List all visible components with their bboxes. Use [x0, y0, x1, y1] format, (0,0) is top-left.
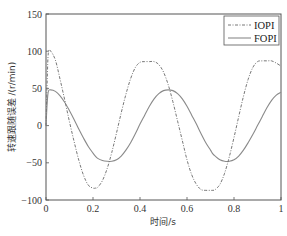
x-tick-label: 0.6 [181, 203, 194, 214]
legend-label-fopi: FOPI [254, 33, 277, 44]
y-axis: 150100500−50−100 [21, 9, 49, 206]
line-chart: 150100500−50−100 00.20.40.60.81 IOPI FOP… [0, 0, 287, 236]
x-tick-label: 1 [279, 203, 284, 214]
x-tick-label: 0 [44, 203, 49, 214]
x-tick-label: 0.2 [87, 203, 100, 214]
legend: IOPI FOPI [224, 16, 279, 45]
y-tick-label: −50 [26, 157, 42, 168]
y-axis-label: 转速跟随误差 /(r/min) [6, 62, 17, 153]
x-tick-label: 0.8 [228, 203, 241, 214]
legend-label-iopi: IOPI [254, 20, 275, 31]
y-tick-label: 150 [27, 9, 42, 20]
x-axis-label: 时间/s [150, 216, 176, 227]
y-tick-label: 50 [32, 83, 42, 94]
y-tick-label: 0 [37, 120, 42, 131]
x-tick-label: 0.4 [134, 203, 147, 214]
y-tick-label: 100 [27, 46, 42, 57]
y-tick-label: −100 [21, 195, 42, 206]
